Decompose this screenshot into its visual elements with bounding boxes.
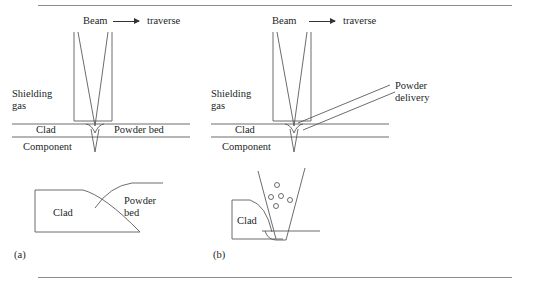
powder-particle-circle-icon: [288, 198, 293, 203]
panel-b-traverse-label: traverse: [343, 15, 376, 27]
panel-b-beam-ray-right: [294, 32, 307, 126]
panel-a-beam-ray-left: [78, 32, 95, 126]
panel-a-beam-ray-right: [95, 32, 108, 126]
panel-a-identifier: (a): [14, 249, 26, 260]
panel-b-powder-stream-right: [286, 168, 305, 240]
panel-a-clad-label: Clad: [36, 124, 56, 136]
panel-b-component-label: Component: [222, 141, 271, 153]
figure-line-art: [0, 0, 549, 293]
panel-b-cross-section: [232, 168, 320, 240]
panel-b-traverse-arrow: [309, 21, 335, 22]
powder-particle-circle-icon: [279, 194, 284, 199]
panel-b-beam-label: Beam: [272, 15, 297, 27]
panel-a-shielding-gas-label: Shielding gas: [12, 88, 52, 113]
panel-b-powder-tube-line-upper: [298, 85, 390, 123]
figure-container: Beam traverse Shielding gas Clad Powder …: [0, 0, 549, 293]
panel-b-identifier: (b): [213, 249, 225, 260]
panel-b-clad-label: Clad: [235, 124, 255, 136]
panel-a-traverse-label: traverse: [147, 15, 180, 27]
panel-a-powder-bed-section-label: Powder bed: [124, 195, 156, 220]
panel-b-clad-section-label: Clad: [237, 215, 257, 227]
panel-b-shielding-gas-label: Shielding gas: [211, 88, 251, 113]
arrow-right-icon: [309, 21, 335, 22]
panel-b-powder-delivery-label: Powder delivery: [395, 80, 429, 105]
panel-a-beam-label: Beam: [83, 15, 108, 27]
panel-a-traverse-arrow: [113, 21, 139, 22]
powder-particle-circle-icon: [275, 183, 280, 188]
panel-a-component-label: Component: [23, 141, 72, 153]
panel-a-powder-bed-label: Powder bed: [114, 124, 164, 136]
arrow-right-icon: [113, 21, 139, 22]
panel-a-clad-section-label: Clad: [53, 207, 73, 219]
panel-b-beam-ray-left: [277, 32, 294, 126]
powder-particle-circle-icon: [269, 195, 274, 200]
powder-particle-circle-icon: [274, 204, 279, 209]
